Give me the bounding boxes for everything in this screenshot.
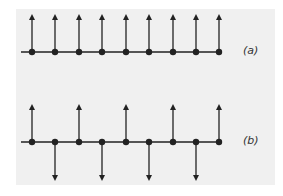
diagram-a	[21, 14, 222, 55]
arrow-up-icon	[216, 104, 222, 110]
diagram-label-b: (b)	[243, 134, 259, 147]
lattice-point	[146, 49, 152, 55]
arrow-up-icon	[52, 14, 58, 20]
lattice-point	[76, 49, 82, 55]
spin-arrangement-diagram	[0, 0, 283, 196]
arrow-up-icon	[123, 14, 129, 20]
lattice-point	[52, 139, 58, 145]
arrow-up-icon	[216, 14, 222, 20]
lattice-point	[99, 139, 105, 145]
lattice-point	[52, 49, 58, 55]
arrow-up-icon	[29, 104, 35, 110]
lattice-point	[123, 49, 129, 55]
lattice-point	[29, 139, 35, 145]
lattice-point	[216, 49, 222, 55]
arrow-up-icon	[29, 14, 35, 20]
arrow-up-icon	[170, 104, 176, 110]
lattice-point	[76, 139, 82, 145]
diagram-b	[21, 104, 222, 181]
diagram-label-a: (a)	[243, 44, 258, 57]
lattice-point	[193, 49, 199, 55]
arrow-up-icon	[170, 14, 176, 20]
arrow-down-icon	[52, 175, 58, 181]
arrow-down-icon	[193, 175, 199, 181]
arrow-down-icon	[99, 175, 105, 181]
lattice-point	[29, 49, 35, 55]
lattice-point	[170, 139, 176, 145]
arrow-up-icon	[146, 14, 152, 20]
arrow-up-icon	[123, 104, 129, 110]
lattice-point	[123, 139, 129, 145]
lattice-point	[146, 139, 152, 145]
arrow-up-icon	[76, 104, 82, 110]
arrow-up-icon	[76, 14, 82, 20]
arrow-up-icon	[99, 14, 105, 20]
arrow-down-icon	[146, 175, 152, 181]
lattice-point	[193, 139, 199, 145]
lattice-point	[99, 49, 105, 55]
arrow-up-icon	[193, 14, 199, 20]
lattice-point	[216, 139, 222, 145]
lattice-point	[170, 49, 176, 55]
